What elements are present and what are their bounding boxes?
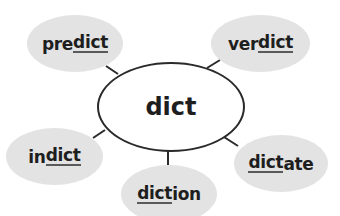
node-prefix: ver [228, 34, 258, 54]
node-root: dict [46, 147, 81, 166]
node-prefix: pre [42, 34, 73, 54]
node-dictate: dictate [234, 135, 328, 192]
node-root: dict [248, 154, 283, 173]
node-diction: diction [121, 165, 217, 216]
node-prefix: in [28, 147, 45, 167]
center-label: dict [145, 93, 196, 121]
node-indict: indict [6, 128, 103, 185]
node-verdict: verdict [211, 15, 310, 72]
node-suffix: ate [283, 154, 313, 174]
node-root: dict [73, 34, 108, 53]
node-root: dict [258, 34, 293, 53]
node-predict: predict [27, 15, 123, 72]
node-suffix: ion [172, 184, 201, 204]
center-node: dict [97, 62, 245, 152]
node-root: dict [137, 185, 172, 204]
